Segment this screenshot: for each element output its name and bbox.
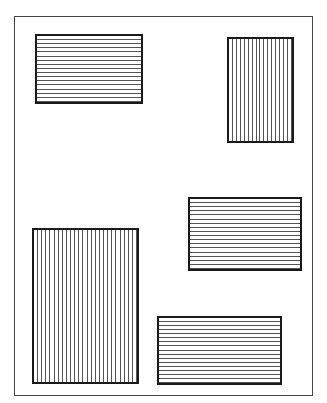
hatched-rectangle-top-left <box>35 34 143 104</box>
hatched-rectangle-middle-right <box>188 197 302 271</box>
hatched-rectangle-top-right <box>227 37 294 143</box>
hatched-rectangle-bottom-right <box>157 316 282 385</box>
hatched-rectangle-bottom-left <box>32 228 139 384</box>
